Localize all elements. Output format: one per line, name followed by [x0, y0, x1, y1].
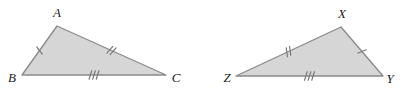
- vertex-label-c: C: [172, 70, 181, 85]
- vertex-label-a: A: [52, 5, 61, 20]
- triangle-abc: [22, 26, 166, 79]
- triangle-xyz: [236, 27, 383, 80]
- vertex-label-x: X: [337, 6, 347, 21]
- vertex-label-y: Y: [386, 71, 395, 86]
- triangle-abc-body: [22, 26, 166, 75]
- vertex-label-b: B: [8, 70, 16, 85]
- geometry-figure: A B C X Z Y: [0, 0, 404, 91]
- triangles-svg: A B C X Z Y: [0, 0, 404, 91]
- vertex-label-z: Z: [223, 70, 231, 85]
